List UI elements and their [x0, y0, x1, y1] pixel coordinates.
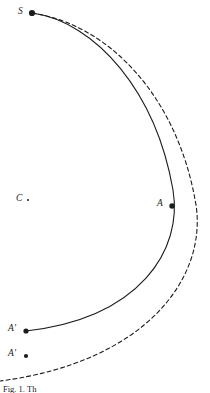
point-marker-a-prime-2: [24, 354, 28, 358]
dashed-arc-path: [0, 13, 197, 381]
point-marker-s: [29, 10, 35, 16]
point-marker-a: [169, 203, 174, 208]
point-label-s: S: [18, 7, 23, 17]
point-marker-layer: [23, 10, 174, 358]
figure-canvas: [0, 0, 210, 393]
figure-page: S C A A′ A′ Fig. 1. Th: [0, 0, 210, 393]
point-label-a-prime-2: A′: [8, 349, 16, 359]
solid-arc-path: [26, 13, 174, 331]
curve-layer: [0, 13, 197, 381]
point-marker-c: [27, 199, 29, 201]
point-label-c: C: [16, 194, 23, 204]
point-label-a: A: [157, 199, 163, 209]
point-label-a-prime: A′: [8, 324, 16, 334]
point-marker-a-prime: [23, 328, 28, 333]
figure-caption: Fig. 1. Th: [3, 385, 123, 393]
